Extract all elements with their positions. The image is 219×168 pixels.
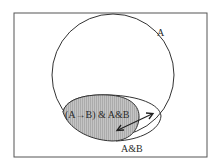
set-a-label: A xyxy=(157,27,165,38)
shaded-region-label: (A→B) & A&B xyxy=(65,109,130,121)
venn-diagram: A A&B (A→B) & A&B xyxy=(0,0,219,168)
set-ab-label: A&B xyxy=(121,143,143,154)
